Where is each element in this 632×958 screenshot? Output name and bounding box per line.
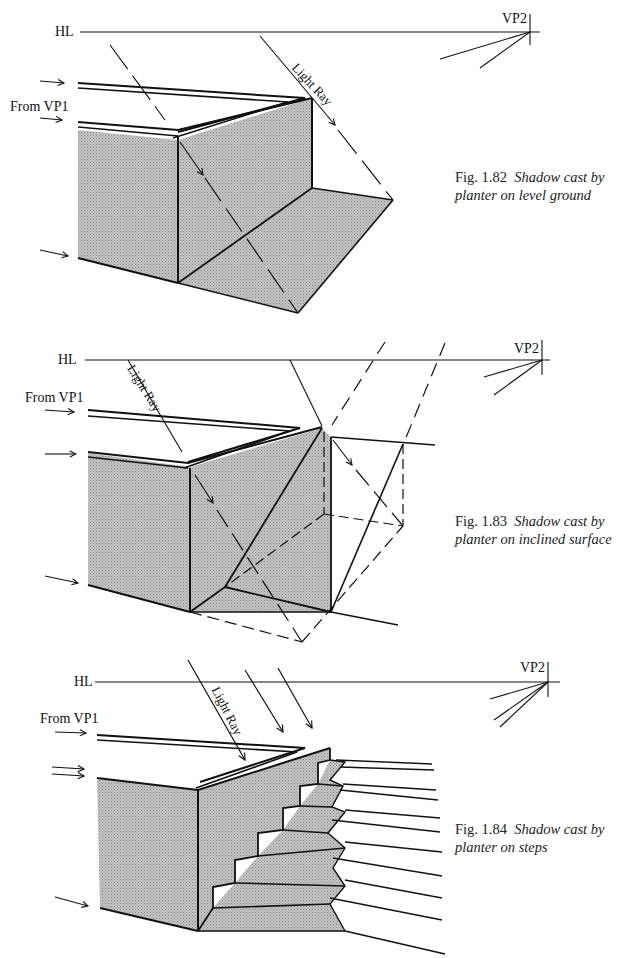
- hl-label-182: HL: [55, 24, 74, 40]
- caption-line1: Shadow cast by: [514, 169, 604, 185]
- from-vp1-label-184: From VP1: [40, 711, 98, 727]
- from-vp1-label-182: From VP1: [10, 99, 68, 115]
- figure-1-82: [40, 14, 540, 313]
- light-ray-dashed: [110, 45, 165, 120]
- left-wall-face: [78, 130, 178, 283]
- perspective-drawings: [0, 0, 632, 958]
- caption-line1: Shadow cast by: [514, 821, 604, 837]
- hl-label-183: HL: [58, 352, 77, 368]
- caption-number: Fig. 1.84: [455, 821, 507, 837]
- figure-1-83: [45, 340, 550, 642]
- from-vp1-label-183: From VP1: [25, 390, 83, 406]
- vp2-label-183: VP2: [514, 341, 539, 357]
- caption-line1: Shadow cast by: [514, 513, 604, 529]
- hl-label-184: HL: [74, 674, 93, 690]
- caption-line2: planter on level ground: [455, 187, 591, 203]
- caption-fig-182: Fig. 1.82 Shadow cast by planter on leve…: [455, 168, 604, 204]
- caption-number: Fig. 1.83: [455, 513, 507, 529]
- caption-fig-184: Fig. 1.84 Shadow cast by planter on step…: [455, 820, 604, 856]
- figure-1-84: [52, 660, 560, 954]
- caption-line2: planter on inclined surface: [455, 531, 612, 547]
- caption-number: Fig. 1.82: [455, 169, 507, 185]
- caption-line2: planter on steps: [455, 839, 548, 855]
- vp2-label-184: VP2: [520, 660, 545, 676]
- vp2-label-182: VP2: [502, 11, 527, 27]
- caption-fig-183: Fig. 1.83 Shadow cast by planter on incl…: [455, 512, 612, 548]
